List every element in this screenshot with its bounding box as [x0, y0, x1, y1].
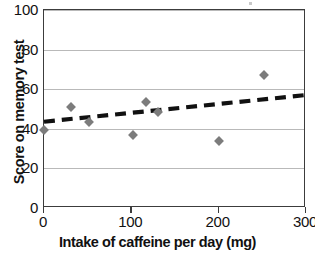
plot-area [43, 9, 305, 207]
y-tick-label: 100 [0, 2, 38, 17]
x-tick-mark [130, 207, 131, 213]
y-tick-label: 0 [0, 200, 38, 215]
scatter-chart: 020406080100 0100200300 Intake of caffei… [0, 0, 315, 261]
x-tick-label: 300 [275, 214, 315, 229]
x-tick-label: 0 [13, 214, 73, 229]
x-tick-label: 100 [100, 214, 160, 229]
y-axis-title: Score on memory test [11, 27, 27, 197]
x-tick-mark [218, 207, 219, 213]
x-tick-mark [305, 207, 306, 213]
trend-line [44, 10, 304, 206]
scan-artifact [249, 2, 252, 5]
x-tick-mark [43, 207, 44, 213]
x-axis-title: Intake of caffeine per day (mg) [0, 234, 315, 250]
x-tick-label: 200 [188, 214, 248, 229]
